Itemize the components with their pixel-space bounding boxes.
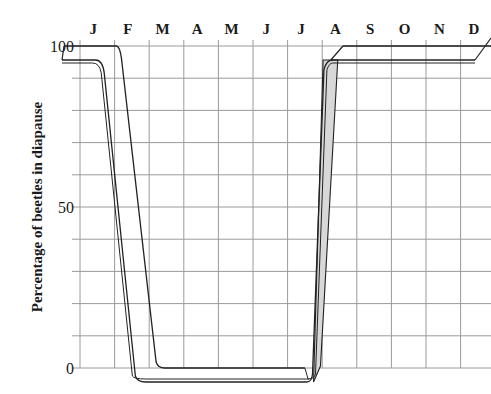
- month-label: D: [468, 21, 479, 37]
- month-label: O: [399, 21, 411, 37]
- month-label: J: [263, 21, 271, 37]
- y-tick-label: 50: [58, 199, 74, 216]
- diapause-chart: JFMAMJJASOND 100500 Percentage of beetle…: [0, 0, 491, 394]
- month-label: F: [123, 21, 132, 37]
- month-label: J: [297, 21, 305, 37]
- chart-grid: [72, 40, 491, 368]
- ribbon-depth-jul: [305, 368, 308, 380]
- month-label: J: [90, 21, 98, 37]
- ribbon-depth-aug: [331, 46, 343, 60]
- y-axis-tick-labels: 100500: [50, 38, 74, 377]
- x-axis-month-labels: JFMAMJJASOND: [90, 21, 480, 37]
- month-label: N: [434, 21, 445, 37]
- chart-canvas: JFMAMJJASOND 100500 Percentage of beetle…: [0, 0, 491, 394]
- month-label: A: [192, 21, 203, 37]
- curve-front-edge-outer: [62, 60, 475, 382]
- ribbon-depth-right: [475, 38, 491, 60]
- diapause-curve-ribbon: [62, 38, 491, 382]
- month-label: M: [155, 21, 169, 37]
- month-label: M: [225, 21, 239, 37]
- month-label: A: [330, 21, 341, 37]
- month-label: S: [366, 21, 374, 37]
- y-axis-label: Percentage of beetles in diapause: [29, 101, 45, 312]
- y-tick-label: 0: [66, 360, 74, 377]
